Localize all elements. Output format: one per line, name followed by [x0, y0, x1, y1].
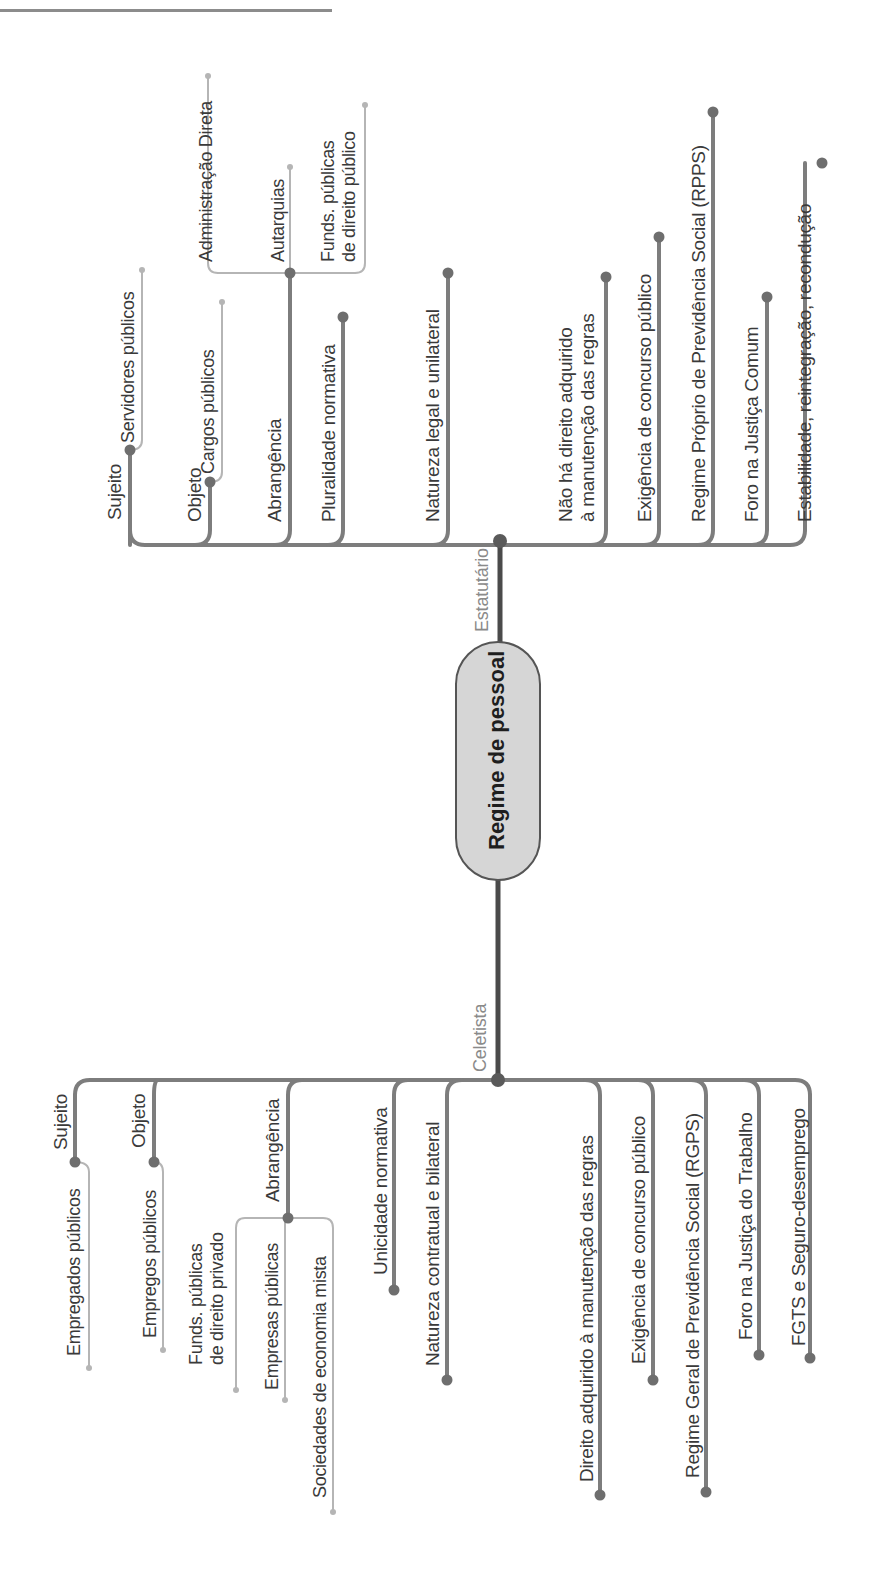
- celetista-sujeito: Sujeito: [50, 1094, 72, 1150]
- celetista-concurso: Exigência de concurso público: [628, 1116, 650, 1364]
- estatutario-objeto: Objeto: [184, 468, 206, 522]
- celetista-foro: Foro na Justiça do Trabalho: [735, 1113, 757, 1340]
- celetista-unicidade: Unicidade normativa: [370, 1108, 392, 1276]
- estatutario-natureza: Natureza legal e unilateral: [422, 309, 444, 522]
- estatutario-sujeito-child: Servidores públicos: [118, 292, 139, 443]
- celetista-fgts: FGTS e Seguro-desemprego: [788, 1108, 810, 1346]
- estatutario-nao-ha-direito: Não há direito adquirido à manutenção da…: [555, 313, 599, 522]
- celetista-abrangencia-sociedades: Sociedades de economia mista: [310, 1256, 331, 1498]
- celetista-abrangencia-empresas: Empresas públicas: [262, 1243, 283, 1390]
- estatutario-abrangencia-funds: Funds. públicas de direito público: [318, 131, 359, 262]
- celetista-abrangencia-funds: Funds. públicas de direito privado: [186, 1232, 227, 1365]
- estatutario-estabilidade: Estabilidade, reintegração, recondução: [794, 204, 816, 522]
- celetista-objeto: Objeto: [128, 1094, 150, 1148]
- celetista-abrangencia: Abrangência: [262, 1099, 284, 1202]
- celetista-rgps: Regime Geral de Previdência Social (RGPS…: [682, 1113, 704, 1478]
- celetista-sujeito-child: Empregados públicos: [64, 1189, 85, 1356]
- branch-label-estatutario: Estatutário: [472, 548, 493, 632]
- estatutario-rpps: Regime Próprio de Previdência Social (RP…: [688, 145, 710, 522]
- estatutario-foro: Foro na Justiça Comum: [741, 327, 763, 522]
- hub-dot-estatutario: [493, 534, 507, 548]
- central-node-title: Regime de pessoal: [484, 651, 510, 850]
- estatutario-abrangencia: Abrangência: [264, 419, 286, 522]
- celetista-direito-adquirido: Direito adquirido à manutenção das regra…: [576, 1135, 598, 1482]
- celetista-objeto-child: Empregos públicos: [140, 1190, 161, 1338]
- estatutario-pluralidade: Pluralidade normativa: [318, 345, 340, 522]
- hub-dot-celetista: [491, 1073, 505, 1087]
- estatutario-abrangencia-adm-direta: Administração Direta: [196, 101, 217, 262]
- estatutario-abrangencia-autarquias: Autarquias: [268, 179, 289, 262]
- estatutario-sujeito: Sujeito: [104, 464, 126, 520]
- celetista-natureza: Natureza contratual e bilateral: [422, 1122, 444, 1366]
- estatutario-objeto-child: Cargos públicos: [198, 349, 219, 474]
- branch-label-celetista: Celetista: [470, 1004, 491, 1072]
- estatutario-concurso: Exigência de concurso público: [634, 274, 656, 522]
